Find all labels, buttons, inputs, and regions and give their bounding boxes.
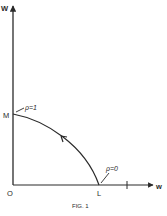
- point-m-label: M: [3, 111, 9, 120]
- rho-zero-pointer: [101, 173, 109, 183]
- point-l-label: L: [97, 189, 101, 198]
- origin-label: O: [7, 189, 13, 198]
- rho-curve: [13, 114, 99, 185]
- figure-canvas: W w O M L ρ=1 ρ=0 FIG. 1: [0, 0, 167, 216]
- y-axis-label: W: [1, 4, 9, 13]
- figure-caption: FIG. 1: [72, 203, 89, 209]
- rho-one-label: ρ=1: [24, 104, 37, 112]
- rho-zero-label: ρ=0: [105, 165, 118, 173]
- x-axis-label: w: [155, 182, 162, 191]
- rho-one-pointer: [16, 108, 24, 112]
